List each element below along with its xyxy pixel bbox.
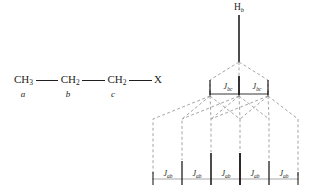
coupling-label-jab-1: Jab [158,169,178,181]
coupling-label-jab-4: Jab [245,169,265,181]
sextet-branches [153,96,298,176]
coupling-label-jab-5: Jab [274,169,294,181]
coupling-label-jab-3: Jab [216,169,236,181]
coupling-label-jab-2: Jab [187,169,207,181]
coupling-label-jbc-1: Jbc [218,82,238,94]
nmr-splitting-figure: CH3 CH2 CH2 X a b c Hb [0,0,318,193]
coupling-label-jbc-2: Jbc [247,82,267,94]
splitting-tree-svg [0,0,318,193]
